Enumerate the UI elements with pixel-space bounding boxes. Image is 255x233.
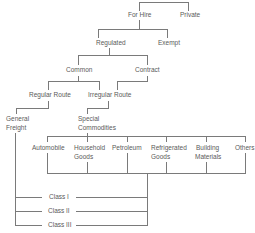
node-refrigerated-line1: Refrigerated: [151, 144, 187, 152]
branch-to-common: [78, 55, 79, 65]
tick-others-bottom: [245, 153, 246, 173]
irregular-route-branch: [87, 108, 109, 109]
branch-to-regular-route: [48, 81, 49, 90]
branch-to-general-freight: [16, 108, 17, 114]
node-household-line1: Household: [74, 144, 105, 152]
branch-to-contract: [147, 55, 148, 65]
contract-to-irregular-route: [117, 81, 118, 90]
common-branch: [48, 81, 100, 82]
tick-household-bottom: [87, 162, 88, 173]
class-3-left-line: [15, 225, 42, 226]
class-2-right-line: [76, 211, 148, 212]
node-exempt: Exempt: [158, 39, 180, 47]
node-class-3: Class III: [48, 221, 71, 229]
node-household-line2: Goods: [74, 153, 93, 161]
node-building-line1: Building: [196, 144, 219, 152]
general-freight-class-spine: [15, 133, 16, 226]
regular-route-branch: [16, 108, 49, 109]
contract-branch: [117, 81, 148, 82]
tick-refrigerated-bottom: [166, 162, 167, 173]
root-connector-right: [188, 2, 189, 11]
node-special-commodities-line2: Commodities: [78, 124, 116, 132]
node-others: Others: [235, 144, 255, 152]
class-1-left-line: [15, 197, 42, 198]
for-hire-branch: [98, 29, 168, 30]
node-automobile: Automobile: [32, 144, 65, 152]
commodities-top-bar: [47, 136, 246, 137]
tick-petroleum-bottom: [127, 153, 128, 173]
node-for-hire: For Hire: [128, 11, 151, 19]
branch-to-exempt: [167, 29, 168, 38]
tick-refrigerated-top: [166, 136, 167, 142]
regulated-branch: [78, 55, 148, 56]
node-irregular-route: Irregular Route: [88, 91, 131, 99]
node-general-freight-line1: General: [6, 115, 29, 123]
for-hire-stem: [139, 20, 140, 29]
regular-route-stem: [48, 101, 49, 108]
tick-building-bottom: [206, 162, 207, 173]
branch-to-irregular-route: [99, 81, 100, 90]
node-special-commodities-line1: Special: [78, 115, 99, 123]
node-petroleum: Petroleum: [112, 144, 142, 152]
node-class-2: Class II: [48, 207, 70, 215]
branch-to-special-commodities: [87, 108, 88, 114]
node-regulated: Regulated: [96, 39, 126, 47]
regulated-stem: [109, 48, 110, 55]
tick-household-top: [87, 136, 88, 142]
node-contract: Contract: [135, 66, 160, 74]
node-refrigerated-line2: Goods: [151, 153, 170, 161]
root-connector: [139, 2, 189, 3]
node-regular-route: Regular Route: [29, 91, 71, 99]
tick-petroleum-top: [127, 136, 128, 142]
node-common: Common: [66, 66, 92, 74]
branch-to-regulated: [98, 29, 99, 38]
tick-others-top: [245, 136, 246, 142]
root-connector-left: [139, 2, 140, 11]
class-3-right-line: [76, 225, 148, 226]
commodities-class-spine: [147, 173, 148, 226]
node-building-line2: Materials: [195, 153, 221, 161]
tick-automobile-top: [47, 136, 48, 142]
tick-automobile-bottom: [47, 153, 48, 173]
class-2-left-line: [15, 211, 42, 212]
tick-building-top: [206, 136, 207, 142]
node-private: Private: [180, 11, 200, 19]
class-1-right-line: [76, 197, 148, 198]
node-general-freight-line2: Freight: [6, 124, 26, 132]
irregular-route-stem: [108, 101, 109, 108]
node-class-1: Class I: [49, 193, 69, 201]
